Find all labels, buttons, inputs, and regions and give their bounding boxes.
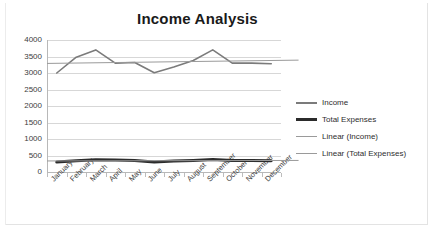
y-axis-tick-label: 3500 <box>4 52 42 61</box>
legend-swatch-income-icon <box>296 100 317 106</box>
legend-label-total-expenses: Total Expenses <box>322 115 376 124</box>
series-lines-group <box>47 40 281 173</box>
chart-container: Income Analysis 400035003000250020001500… <box>0 0 435 235</box>
legend-label-income: Income <box>322 98 348 107</box>
legend-item-linear-income[interactable]: Linear (Income) <box>296 128 432 145</box>
legend-label-linear-income: Linear (Income) <box>322 132 378 141</box>
y-axis-tick-label: 3000 <box>4 68 42 77</box>
y-axis-tick-label: 2500 <box>4 85 42 94</box>
legend-swatch-total-expenses-icon <box>296 117 317 123</box>
y-axis-tick-label: 2000 <box>4 101 42 110</box>
legend-swatch-linear-total-expenses-icon <box>296 151 317 157</box>
legend-item-income[interactable]: Income <box>296 94 432 111</box>
chart-legend: Income Total Expenses Linear (Income) Li… <box>296 94 432 162</box>
legend-swatch-linear-income-icon <box>296 134 317 140</box>
chart-title: Income Analysis <box>0 10 395 27</box>
legend-item-linear-total-expenses[interactable]: Linear (Total Expenses) <box>296 145 432 162</box>
y-axis-tick-label: 4000 <box>4 35 42 44</box>
legend-item-total-expenses[interactable]: Total Expenses <box>296 111 432 128</box>
x-axis-tick <box>281 173 282 177</box>
y-axis-tick-label: 500 <box>4 151 42 160</box>
legend-label-linear-total-expenses: Linear (Total Expenses) <box>322 149 406 158</box>
y-axis-tick-label: 1500 <box>4 118 42 127</box>
y-axis-tick-label: 0 <box>4 167 42 176</box>
y-axis-tick-label: 1000 <box>4 134 42 143</box>
